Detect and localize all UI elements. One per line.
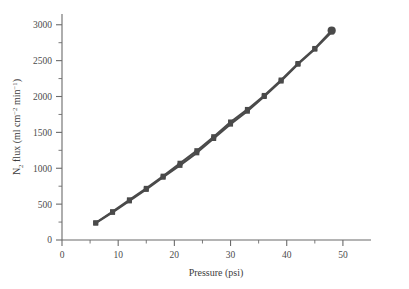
series-2-marker-2	[127, 198, 132, 203]
series-2-marker-7	[211, 136, 216, 141]
x-tick-label-50: 50	[338, 250, 348, 260]
y-tick-label-1500: 1500	[33, 128, 52, 138]
x-tick-label-30: 30	[226, 250, 236, 260]
y-tick-label-500: 500	[38, 200, 53, 210]
series-2-marker-1	[110, 210, 115, 215]
series-2-marker-4	[161, 175, 166, 180]
y-tick-label-3000: 3000	[33, 20, 52, 30]
y-title-tail: )	[11, 79, 23, 82]
y-tick-label-0: 0	[47, 235, 52, 245]
x-axis-title: Pressure (psi)	[189, 267, 244, 279]
y-tick-label-2500: 2500	[33, 56, 52, 66]
y-title-superscript-minus1: −1	[11, 82, 18, 89]
series-2-marker-0	[93, 221, 98, 226]
series-2-marker-3	[144, 187, 149, 192]
series-2-marker-14	[329, 29, 334, 34]
series-2-marker-12	[295, 62, 300, 67]
chart-figure: 050010001500200025003000 01020304050 Pre…	[0, 0, 409, 289]
x-tick-label-20: 20	[170, 250, 180, 260]
x-tick-label-10: 10	[113, 250, 123, 260]
series-2-marker-6	[194, 150, 199, 155]
y-tick-label-2000: 2000	[33, 92, 52, 102]
x-tick-label-40: 40	[282, 250, 292, 260]
series-2-marker-13	[312, 47, 317, 52]
y-axis-title-text: N2 flux (ml cm−2 min−1)	[11, 79, 24, 175]
series-2-marker-10	[262, 94, 267, 99]
y-title-mid: flux (ml cm	[11, 115, 23, 165]
nitrogen-flux-line-chart: 050010001500200025003000 01020304050 Pre…	[0, 0, 409, 289]
y-tick-label-1000: 1000	[33, 164, 52, 174]
y-title-lead: N	[11, 168, 22, 175]
series-2-marker-11	[279, 79, 284, 84]
y-axis-title: N2 flux (ml cm−2 min−1)	[11, 79, 24, 175]
y-title-mid2: min	[11, 89, 22, 107]
series-2-marker-9	[245, 109, 250, 114]
series-2-marker-8	[228, 122, 233, 127]
series-2-marker-5	[177, 163, 182, 168]
x-tick-label-0: 0	[60, 250, 65, 260]
